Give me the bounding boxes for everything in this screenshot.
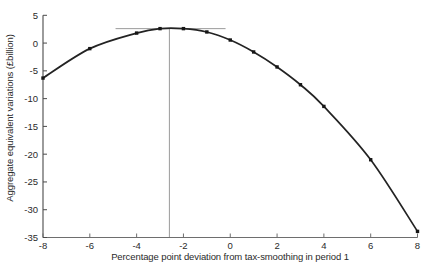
y-tick-label: -5 [30,65,38,76]
data-point-marker [252,50,255,53]
data-point-marker [182,27,185,30]
x-tick-label: -2 [179,240,187,251]
x-tick-label: -8 [39,240,47,251]
y-tick-label: -10 [24,93,38,104]
data-point-marker [229,38,232,41]
data-point-marker [416,230,419,233]
y-tick-label: 5 [33,10,38,21]
x-tick-label: 8 [415,240,420,251]
x-axis-label: Percentage point deviation from tax-smoo… [111,251,349,262]
x-tick-label: 4 [321,240,326,251]
y-tick-label: -25 [24,176,38,187]
y-tick-label: -35 [24,232,38,243]
data-curve [43,28,418,231]
x-tick-label: 6 [368,240,373,251]
data-point-marker [299,83,302,86]
data-point-marker [158,27,161,30]
y-axis-label: Aggregate equivalent variations (£billio… [4,34,15,201]
y-tick-label: -20 [24,149,38,160]
chart-figure: -8-6-4-20246850-5-10-15-20-25-30-35 Aggr… [0,0,429,270]
data-point-marker [41,76,44,79]
line-chart-canvas: -8-6-4-20246850-5-10-15-20-25-30-35 [0,0,429,270]
data-point-marker [369,158,372,161]
data-point-marker [135,31,138,34]
y-tick-label: -30 [24,204,38,215]
x-tick-label: 2 [274,240,279,251]
y-tick-label: -15 [24,121,38,132]
data-point-marker [322,105,325,108]
data-point-marker [275,65,278,68]
x-tick-label: 0 [228,240,233,251]
y-tick-label: 0 [33,38,38,49]
data-point-marker [88,47,91,50]
data-point-marker [205,30,208,33]
x-tick-label: -6 [86,240,94,251]
x-tick-label: -4 [132,240,140,251]
